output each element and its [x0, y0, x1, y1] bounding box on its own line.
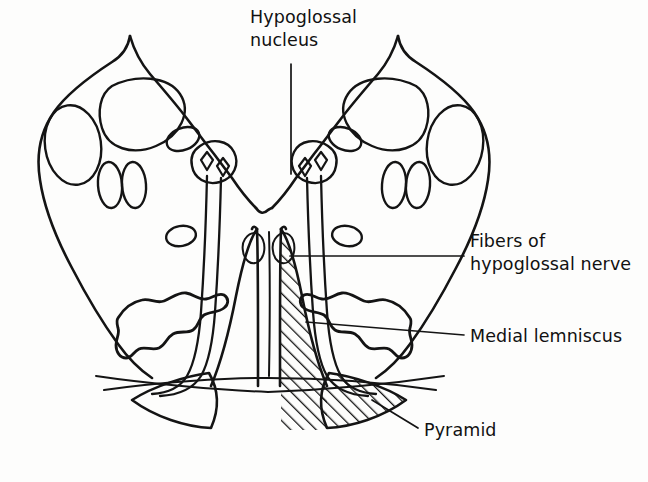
left-wing-nuclei [40, 78, 203, 248]
hypoglossal-fibers-left [152, 176, 221, 396]
label-medial-lemniscus: Medial lemniscus [470, 325, 622, 348]
anatomy-figure: Hypoglossal nucleus Fibers of hypoglossa… [0, 0, 648, 482]
hypoglossal-nucleus-left [191, 141, 236, 183]
label-hypoglossal-nucleus: Hypoglossal nucleus [250, 6, 357, 52]
ventral-crossing-lines [96, 376, 444, 392]
hypoglossal-nucleus-right [292, 141, 337, 183]
right-wing-nuclei [325, 78, 488, 248]
label-pyramid: Pyramid [424, 419, 497, 442]
pyramid-right [310, 360, 430, 450]
label-fibers-of-hypoglossal-nerve: Fibers of hypoglossal nerve [470, 230, 631, 276]
